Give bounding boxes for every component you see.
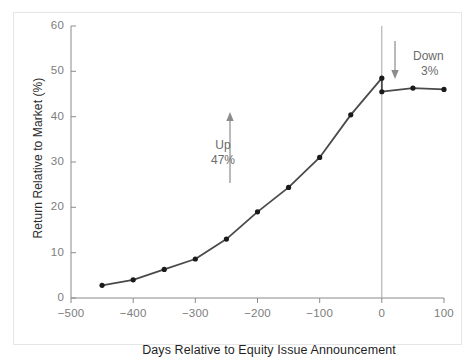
annotation-down-value: 3% bbox=[421, 64, 438, 79]
x-tick-label-minus300: −300 bbox=[165, 307, 225, 319]
chart-plot-area bbox=[14, 13, 461, 344]
y-tick-label-60: 60 bbox=[26, 19, 64, 31]
annotation-up-value: 47% bbox=[211, 153, 235, 167]
x-tick-label-minus200: −200 bbox=[228, 307, 288, 319]
data-point bbox=[410, 86, 415, 91]
data-point bbox=[99, 283, 104, 288]
data-point bbox=[224, 236, 229, 241]
x-axis-title: Days Relative to Equity Issue Announceme… bbox=[74, 343, 464, 357]
annotation-down: Down 3% bbox=[413, 49, 459, 79]
arrow-down-icon bbox=[391, 41, 398, 79]
annotation-down-label: Down bbox=[413, 49, 444, 63]
data-point bbox=[255, 209, 260, 214]
data-point bbox=[379, 76, 384, 81]
data-point bbox=[317, 155, 322, 160]
x-tick-label-minus500: −500 bbox=[41, 307, 101, 319]
data-series-line bbox=[102, 78, 444, 285]
y-axis-ticks bbox=[71, 26, 76, 298]
data-point bbox=[348, 112, 353, 117]
data-series-markers bbox=[99, 76, 446, 288]
x-tick-label-minus400: −400 bbox=[103, 307, 163, 319]
annotation-up: Up 47% bbox=[202, 138, 244, 168]
annotation-up-label: Up bbox=[215, 138, 230, 152]
y-tick-label-0: 0 bbox=[26, 291, 64, 303]
y-axis-title: Return Relative to Market (%) bbox=[31, 58, 45, 258]
data-point bbox=[379, 89, 384, 94]
x-tick-label-100: 100 bbox=[414, 307, 473, 319]
x-tick-label-minus100: −100 bbox=[290, 307, 350, 319]
data-point bbox=[286, 185, 291, 190]
x-axis-ticks bbox=[71, 298, 444, 303]
figure-frame: 0 10 20 30 40 50 60 −500 −400 −300 −200 … bbox=[13, 12, 462, 345]
figure-canvas: 0 10 20 30 40 50 60 −500 −400 −300 −200 … bbox=[0, 0, 473, 363]
data-point bbox=[162, 267, 167, 272]
data-point bbox=[193, 256, 198, 261]
data-point bbox=[131, 277, 136, 282]
data-point bbox=[441, 87, 446, 92]
x-tick-label-0: 0 bbox=[352, 307, 412, 319]
